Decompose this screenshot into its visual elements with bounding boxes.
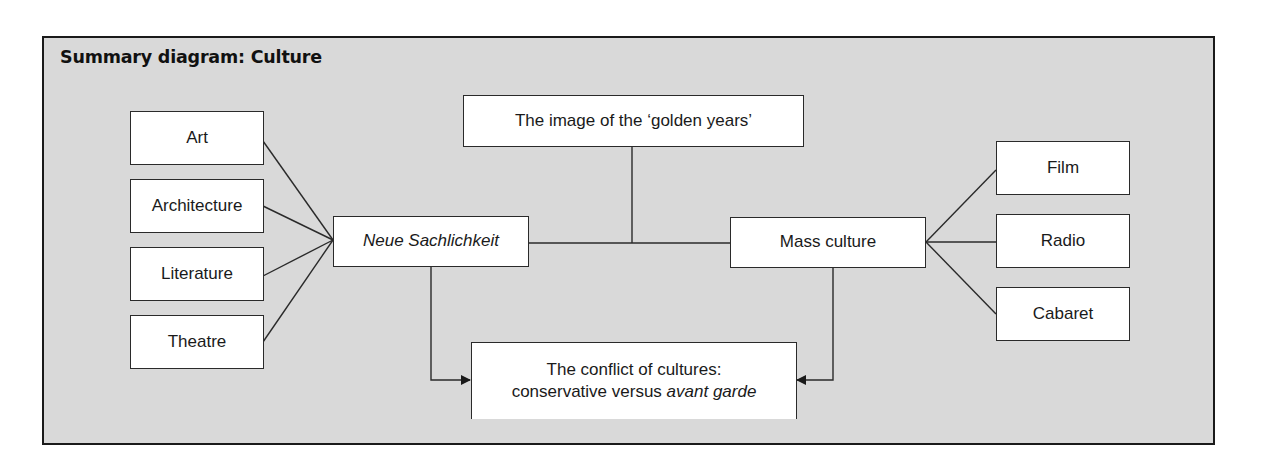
node-golden-years-label: The image of the ‘golden years’ [515, 110, 752, 132]
node-literature-label: Literature [161, 263, 233, 285]
node-art-label: Art [186, 127, 208, 149]
conflict-line-2-italic: avant garde [667, 382, 757, 401]
conflict-line-2-prefix: conservative versus [512, 382, 667, 401]
conflict-line-1: The conflict of cultures: [547, 359, 722, 381]
node-film: Film [996, 141, 1130, 195]
node-literature: Literature [130, 247, 264, 301]
node-mass-culture: Mass culture [730, 217, 926, 268]
node-radio: Radio [996, 214, 1130, 268]
node-architecture: Architecture [130, 179, 264, 233]
edge-cabaret [926, 242, 996, 314]
node-architecture-label: Architecture [152, 195, 243, 217]
edge-literature [263, 240, 333, 276]
edge-theatre [263, 240, 333, 342]
arrow-mass-to-conflict [797, 267, 833, 380]
node-neue-sachlichkeit: Neue Sachlichkeit [333, 216, 529, 267]
edge-film [926, 170, 996, 242]
arrow-neue-to-conflict [431, 266, 470, 380]
node-theatre: Theatre [130, 315, 264, 369]
node-cabaret: Cabaret [996, 287, 1130, 341]
node-conflict-of-cultures: The conflict of cultures: conservative v… [471, 342, 797, 419]
node-mass-culture-label: Mass culture [780, 231, 876, 253]
node-theatre-label: Theatre [168, 331, 227, 353]
node-art: Art [130, 111, 264, 165]
edge-art [263, 141, 333, 240]
node-radio-label: Radio [1041, 230, 1085, 252]
node-golden-years: The image of the ‘golden years’ [463, 95, 804, 147]
node-cabaret-label: Cabaret [1033, 303, 1093, 325]
node-neue-sachlichkeit-label: Neue Sachlichkeit [363, 230, 499, 252]
edge-architecture [263, 206, 333, 240]
conflict-line-2: conservative versus avant garde [512, 381, 757, 403]
node-film-label: Film [1047, 157, 1079, 179]
